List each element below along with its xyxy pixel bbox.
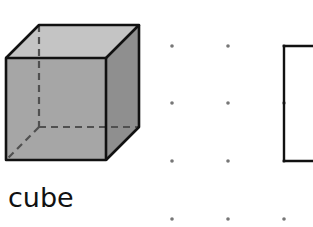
grid-dot (226, 101, 230, 105)
grid-dot (170, 217, 174, 221)
grid-dot (226, 217, 230, 221)
cube-label: cube (8, 184, 74, 211)
partial-rectangle-drawing (284, 46, 313, 161)
cube-diagram: cube (0, 0, 313, 227)
grid-dot (170, 44, 174, 48)
grid-dot (170, 101, 174, 105)
grid-dot (226, 44, 230, 48)
grid-dot (226, 159, 230, 163)
grid-dot (282, 217, 286, 221)
dot-grid (170, 44, 286, 221)
grid-dot (170, 159, 174, 163)
cube-illustration (6, 25, 139, 160)
